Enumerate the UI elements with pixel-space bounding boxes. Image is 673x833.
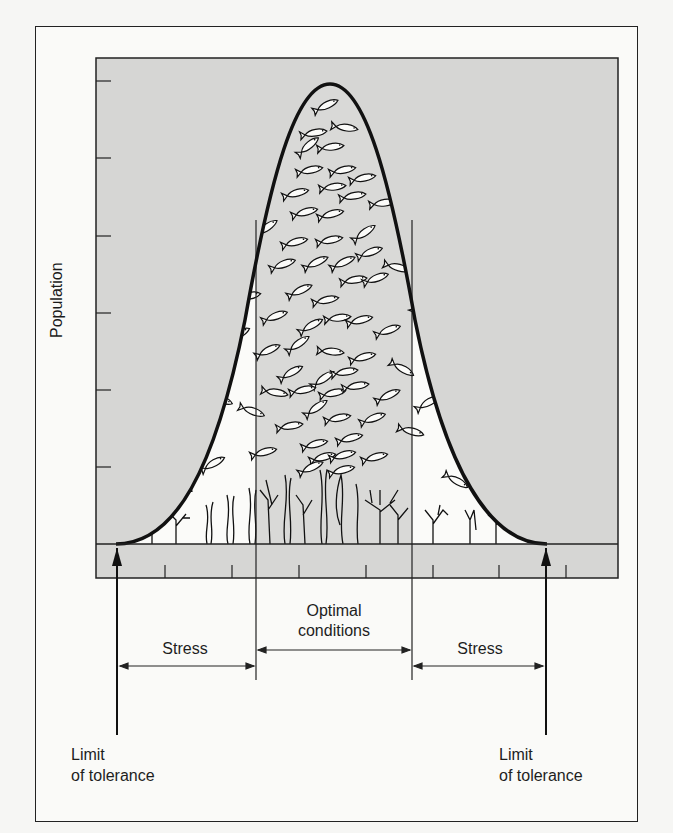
- left-limit-label-line2: of tolerance: [71, 766, 155, 785]
- y-axis-label: Population: [48, 262, 66, 338]
- tolerance-curve-chart: [0, 0, 673, 833]
- right-limit-label-line2: of tolerance: [499, 766, 583, 785]
- right-stress-label: Stress: [425, 639, 535, 658]
- optimal-label-line2: conditions: [270, 621, 398, 640]
- optimal-label-line1: Optimal: [270, 601, 398, 620]
- left-limit-label-line1: Limit: [71, 745, 105, 764]
- right-limit-label-line1: Limit: [499, 745, 533, 764]
- left-stress-label: Stress: [130, 639, 240, 658]
